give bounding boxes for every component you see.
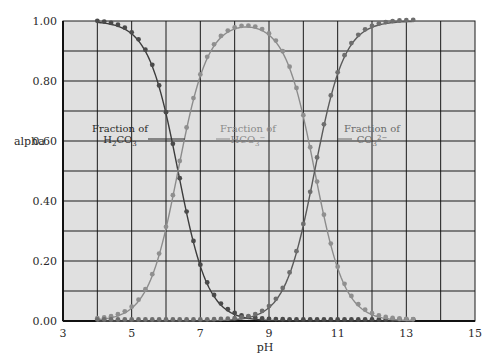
x-axis-label: pH bbox=[257, 341, 274, 354]
data-point-hco3 bbox=[335, 264, 340, 269]
data-point-h2co3 bbox=[315, 317, 320, 322]
data-point-co3 bbox=[122, 317, 127, 322]
y-tick-label: 0.20 bbox=[33, 255, 58, 268]
data-point-h2co3 bbox=[198, 262, 203, 267]
data-point-h2co3 bbox=[370, 317, 375, 322]
data-point-h2co3 bbox=[232, 311, 237, 316]
x-tick-label: 11 bbox=[331, 327, 345, 340]
data-point-co3 bbox=[205, 317, 210, 322]
data-point-h2co3 bbox=[342, 317, 347, 322]
data-point-hco3 bbox=[143, 287, 148, 292]
data-point-h2co3 bbox=[349, 317, 354, 322]
data-point-hco3 bbox=[260, 27, 265, 32]
data-point-h2co3 bbox=[150, 62, 155, 67]
data-point-hco3 bbox=[198, 72, 203, 77]
data-point-h2co3 bbox=[177, 176, 182, 181]
data-point-hco3 bbox=[376, 313, 381, 318]
data-point-hco3 bbox=[356, 302, 361, 307]
data-point-hco3 bbox=[390, 316, 395, 321]
data-point-co3 bbox=[397, 18, 402, 23]
x-tick-label: 3 bbox=[60, 327, 67, 340]
data-point-hco3 bbox=[219, 34, 224, 39]
y-tick-label: 0.80 bbox=[33, 75, 58, 88]
data-point-hco3 bbox=[129, 304, 134, 309]
data-point-h2co3 bbox=[328, 317, 333, 322]
data-point-hco3 bbox=[322, 212, 327, 217]
data-point-hco3 bbox=[397, 316, 402, 321]
data-point-h2co3 bbox=[205, 280, 210, 285]
data-point-h2co3 bbox=[191, 239, 196, 244]
x-tick-label: 5 bbox=[128, 327, 135, 340]
data-point-hco3 bbox=[383, 315, 388, 320]
data-point-co3 bbox=[308, 189, 313, 194]
y-tick-label: 0.40 bbox=[33, 195, 58, 208]
speciation-chart: 3579111315 0.000.200.400.600.801.00 pH a… bbox=[0, 0, 489, 362]
data-point-hco3 bbox=[315, 179, 320, 184]
data-point-h2co3 bbox=[301, 317, 306, 322]
data-point-h2co3 bbox=[225, 307, 230, 312]
data-point-co3 bbox=[328, 93, 333, 98]
data-point-h2co3 bbox=[95, 18, 100, 23]
data-point-hco3 bbox=[232, 25, 237, 30]
data-point-co3 bbox=[370, 23, 375, 28]
data-point-h2co3 bbox=[335, 317, 340, 322]
annotation-line1: Fraction of bbox=[344, 123, 401, 134]
data-point-h2co3 bbox=[363, 317, 368, 322]
data-point-co3 bbox=[177, 317, 182, 322]
data-point-h2co3 bbox=[322, 317, 327, 322]
data-point-h2co3 bbox=[287, 317, 292, 322]
data-point-hco3 bbox=[212, 42, 217, 47]
data-point-co3 bbox=[212, 317, 217, 322]
y-tick-label: 1.00 bbox=[33, 15, 58, 28]
x-tick-label: 7 bbox=[197, 327, 204, 340]
data-point-co3 bbox=[411, 18, 416, 23]
data-point-co3 bbox=[356, 32, 361, 37]
x-tick-label: 15 bbox=[468, 327, 482, 340]
x-tick-labels: 3579111315 bbox=[60, 327, 483, 340]
data-point-co3 bbox=[267, 304, 272, 309]
data-point-hco3 bbox=[411, 317, 416, 322]
data-point-co3 bbox=[322, 122, 327, 127]
data-point-hco3 bbox=[370, 311, 375, 316]
data-point-hco3 bbox=[253, 24, 258, 29]
data-point-h2co3 bbox=[273, 317, 278, 322]
data-point-hco3 bbox=[267, 31, 272, 36]
data-point-co3 bbox=[239, 315, 244, 320]
data-point-co3 bbox=[363, 27, 368, 32]
data-point-hco3 bbox=[177, 158, 182, 163]
data-point-hco3 bbox=[205, 54, 210, 59]
data-point-h2co3 bbox=[164, 110, 169, 115]
data-point-hco3 bbox=[363, 307, 368, 312]
data-point-co3 bbox=[376, 21, 381, 26]
data-point-hco3 bbox=[136, 297, 141, 302]
data-point-h2co3 bbox=[109, 20, 114, 25]
data-point-h2co3 bbox=[170, 141, 175, 146]
data-point-hco3 bbox=[157, 251, 162, 256]
data-point-co3 bbox=[294, 249, 299, 254]
data-point-hco3 bbox=[225, 28, 230, 33]
data-point-hco3 bbox=[404, 316, 409, 321]
data-point-co3 bbox=[315, 155, 320, 160]
data-point-hco3 bbox=[170, 193, 175, 198]
annotation-line1: Fraction of bbox=[92, 123, 149, 134]
data-point-co3 bbox=[95, 317, 100, 322]
data-point-co3 bbox=[335, 70, 340, 75]
x-tick-label: 13 bbox=[399, 327, 413, 340]
data-point-hco3 bbox=[239, 23, 244, 28]
data-point-co3 bbox=[184, 317, 189, 322]
data-point-h2co3 bbox=[116, 22, 121, 27]
data-point-co3 bbox=[191, 317, 196, 322]
data-point-co3 bbox=[136, 317, 141, 322]
data-point-h2co3 bbox=[136, 37, 141, 42]
data-point-h2co3 bbox=[260, 316, 265, 321]
data-point-hco3 bbox=[122, 309, 127, 314]
data-point-co3 bbox=[219, 317, 224, 322]
data-point-co3 bbox=[260, 309, 265, 314]
data-point-h2co3 bbox=[267, 316, 272, 321]
data-point-co3 bbox=[301, 222, 306, 227]
data-point-co3 bbox=[273, 296, 278, 301]
data-point-co3 bbox=[349, 41, 354, 46]
data-point-hco3 bbox=[116, 312, 121, 317]
data-point-h2co3 bbox=[356, 317, 361, 322]
data-point-hco3 bbox=[246, 23, 251, 28]
